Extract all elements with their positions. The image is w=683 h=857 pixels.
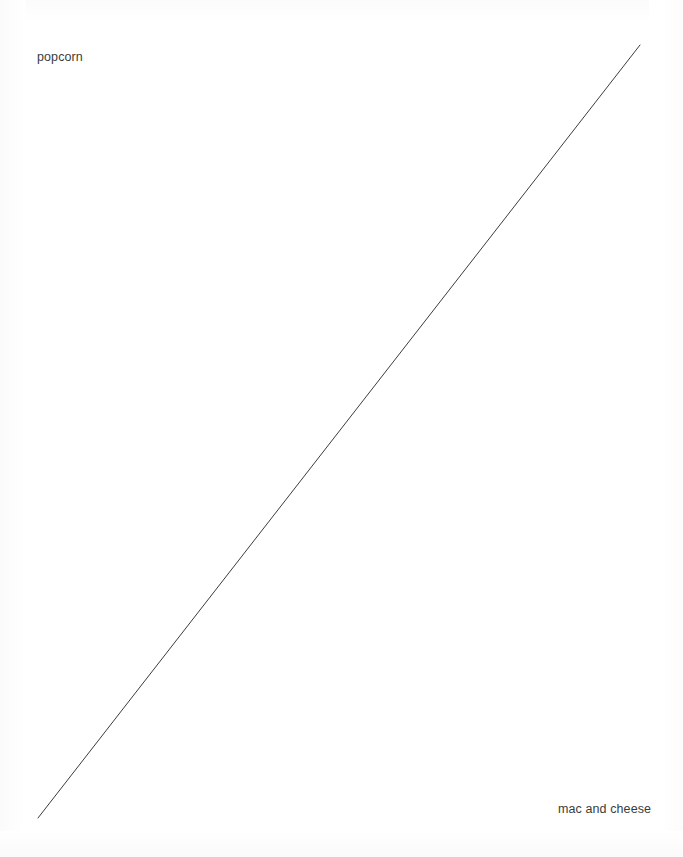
trend-line — [38, 45, 640, 818]
line-chart-figure — [0, 0, 683, 857]
chart-svg — [0, 0, 683, 857]
chart-label-mac-and-cheese: mac and cheese — [558, 803, 651, 816]
chart-label-popcorn: popcorn — [37, 51, 83, 64]
page-canvas: popcorn mac and cheese — [0, 0, 683, 857]
